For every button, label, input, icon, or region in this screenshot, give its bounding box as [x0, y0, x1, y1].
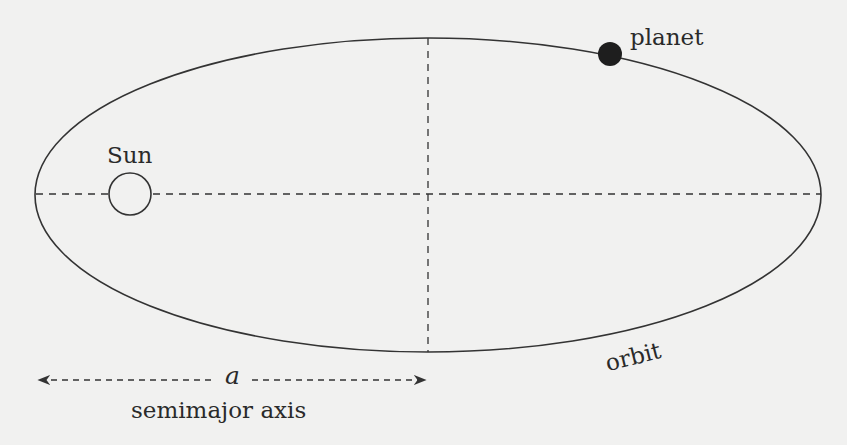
- planet-label: planet: [630, 24, 703, 50]
- planet-dot: [598, 42, 622, 66]
- orbit-diagram: [0, 0, 847, 445]
- sun-circle: [109, 173, 151, 215]
- sun-label: Sun: [107, 142, 152, 168]
- semimajor-axis-label: semimajor axis: [131, 397, 306, 423]
- semimajor-symbol: a: [225, 361, 240, 390]
